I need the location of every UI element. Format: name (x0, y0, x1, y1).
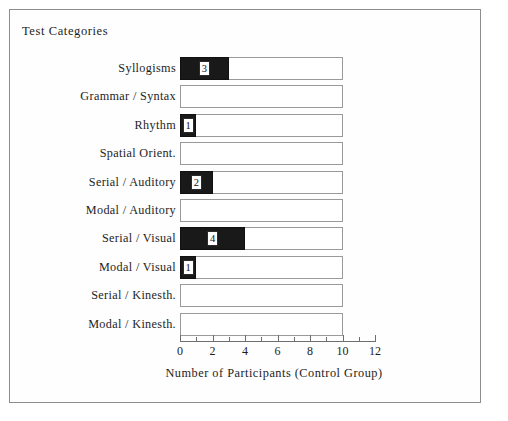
category-label: Serial / Auditory (89, 171, 176, 194)
x-tick-major (375, 335, 376, 342)
category-label: Rhythm (135, 114, 176, 137)
bar-track (180, 256, 343, 279)
bar-track (180, 199, 343, 222)
category-label: Grammar / Syntax (80, 85, 176, 108)
bar-row: Rhythm1 (0, 114, 508, 137)
bar-track (180, 114, 343, 137)
x-tick-minor (359, 337, 360, 342)
bar-value-label: 1 (183, 260, 194, 275)
category-label: Syllogisms (118, 57, 176, 80)
category-label: Modal / Auditory (86, 199, 176, 222)
x-tick-label: 6 (266, 344, 290, 359)
bar-value-label: 1 (183, 118, 194, 133)
x-axis-label-text: Number of Participants (Control Group) (165, 366, 382, 380)
x-tick-label: 12 (363, 344, 387, 359)
bar-row: Serial / Kinesth. (0, 284, 508, 307)
bar-track (180, 85, 343, 108)
bar-row: Serial / Visual4 (0, 227, 508, 250)
x-tick-major (343, 335, 344, 342)
bar-row: Modal / Visual1 (0, 256, 508, 279)
x-tick-label: 8 (298, 344, 322, 359)
x-tick-label: 4 (233, 344, 257, 359)
bar-row: Syllogisms3 (0, 57, 508, 80)
x-tick-minor (229, 337, 230, 342)
x-tick-minor (261, 337, 262, 342)
bar-track (180, 142, 343, 165)
category-label: Serial / Kinesth. (91, 284, 176, 307)
bar-row: Spatial Orient. (0, 142, 508, 165)
category-label: Modal / Visual (99, 256, 176, 279)
x-tick-major (180, 335, 181, 342)
x-tick-label: 10 (331, 344, 355, 359)
bar-row: Serial / Auditory2 (0, 171, 508, 194)
x-tick-label: 2 (201, 344, 225, 359)
plot-area: Syllogisms3Grammar / SyntaxRhythm1Spatia… (0, 0, 508, 421)
category-label: Serial / Visual (102, 227, 176, 250)
x-tick-major (245, 335, 246, 342)
x-tick-minor (326, 337, 327, 342)
category-label: Spatial Orient. (100, 142, 176, 165)
bar-value-label: 3 (199, 61, 210, 76)
category-label: Modal / Kinesth. (88, 313, 176, 336)
x-tick-minor (294, 337, 295, 342)
x-tick-major (278, 335, 279, 342)
figure-container: Test Categories Syllogisms3Grammar / Syn… (0, 0, 508, 421)
x-tick-minor (196, 337, 197, 342)
x-axis-label: Number of Participants (Control Group) (0, 366, 508, 381)
bar-value-label: 2 (191, 175, 202, 190)
bar-track (180, 313, 343, 336)
bar-value-label: 4 (207, 231, 218, 246)
bar-row: Grammar / Syntax (0, 85, 508, 108)
bar-row: Modal / Kinesth. (0, 313, 508, 336)
bar-row: Modal / Auditory (0, 199, 508, 222)
x-tick-label: 0 (168, 344, 192, 359)
bar-track (180, 284, 343, 307)
x-tick-major (213, 335, 214, 342)
x-tick-major (310, 335, 311, 342)
